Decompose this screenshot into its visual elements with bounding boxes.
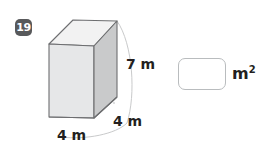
height-label: 7 m [126,56,155,72]
unit-label: m2 [232,64,256,83]
answer-box[interactable] [178,58,226,90]
unit-exponent: 2 [249,64,256,75]
prism-front-face [49,44,94,118]
unit-base: m [232,64,249,83]
worksheet-problem: 19 7 m 4 m 4 m m2 [0,0,264,159]
width-label: 4 m [57,127,86,143]
answer-input[interactable] [179,59,225,89]
depth-label: 4 m [113,113,142,129]
height-dimension-arc [117,21,132,123]
